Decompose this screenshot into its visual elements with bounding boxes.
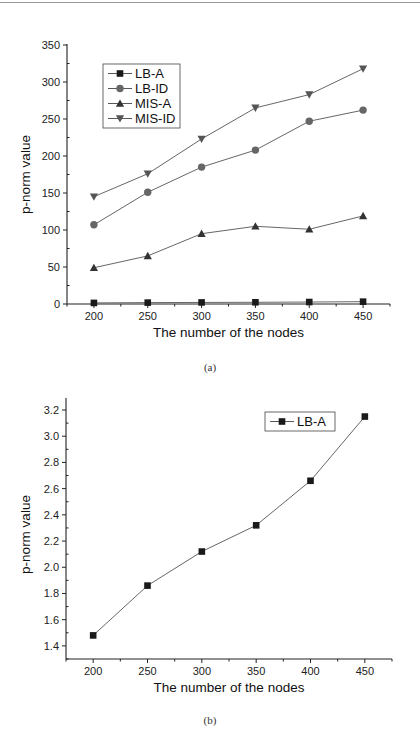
x-tick-label: 450 bbox=[356, 665, 374, 677]
lb-a-marker-icon bbox=[199, 548, 206, 555]
axes bbox=[62, 398, 392, 663]
x-axis-label: The number of the nodes bbox=[154, 680, 305, 695]
x-tick-label: 200 bbox=[84, 665, 102, 677]
y-tick-label: 3.2 bbox=[44, 404, 59, 416]
y-tick-label: 1.4 bbox=[44, 640, 59, 652]
legend: LB-A bbox=[265, 412, 335, 431]
y-tick-label: 3.0 bbox=[44, 430, 59, 442]
lb-a-marker-icon bbox=[362, 413, 369, 420]
lb-a-marker-icon bbox=[307, 477, 314, 484]
y-tick-label: 2.2 bbox=[44, 535, 59, 547]
y-tick-label: 1.6 bbox=[44, 614, 59, 626]
legend-lb-a-marker-icon bbox=[279, 418, 286, 425]
chart-b: 2002503003504004501.41.61.82.02.22.42.62… bbox=[0, 0, 420, 710]
lb-a-marker-icon bbox=[144, 582, 151, 589]
caption-b: (b) bbox=[0, 714, 420, 726]
y-tick-labels: 1.41.61.82.02.22.42.62.83.03.2 bbox=[44, 404, 59, 652]
y-tick-label: 1.8 bbox=[44, 587, 59, 599]
x-tick-label: 400 bbox=[301, 665, 319, 677]
x-tick-label: 300 bbox=[193, 665, 211, 677]
series-lb-a bbox=[90, 413, 368, 638]
legend-label: LB-A bbox=[297, 414, 326, 429]
y-tick-label: 2.4 bbox=[44, 509, 59, 521]
y-tick-label: 2.0 bbox=[44, 561, 59, 573]
x-tick-label: 250 bbox=[138, 665, 156, 677]
y-axis-label: p-norm value bbox=[18, 495, 33, 574]
lb-a-marker-icon bbox=[253, 522, 260, 529]
x-tick-label: 350 bbox=[247, 665, 265, 677]
y-tick-label: 2.8 bbox=[44, 456, 59, 468]
y-tick-label: 2.6 bbox=[44, 483, 59, 495]
x-tick-labels: 200250300350400450 bbox=[84, 665, 374, 677]
lb-a-marker-icon bbox=[90, 632, 97, 639]
